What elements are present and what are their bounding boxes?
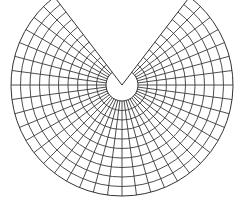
polar-grid-svg (0, 0, 246, 216)
inner-circle-arc (106, 72, 138, 101)
polar-grid-diagram (0, 0, 246, 216)
